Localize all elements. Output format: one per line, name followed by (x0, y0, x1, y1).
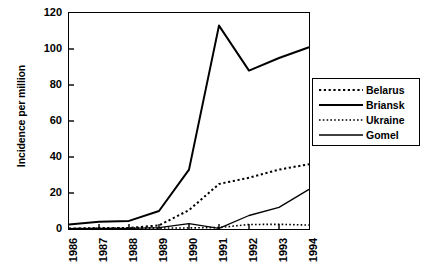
legend-label: Gomel (364, 129, 399, 141)
series-line-belarus (69, 164, 309, 228)
legend-line-sample (318, 85, 364, 95)
legend-line-sample (318, 100, 364, 110)
legend-label: Ukraine (364, 114, 405, 126)
legend-item-ukraine[interactable]: Ukraine (313, 112, 419, 127)
y-tick-label: 40 (30, 150, 66, 162)
x-tick-label: 1991 (211, 230, 225, 258)
legend-label: Belarus (364, 84, 405, 96)
y-tick-label: 80 (30, 78, 66, 90)
x-tick-label: 1987 (91, 230, 105, 258)
x-tick-label: 1988 (121, 230, 135, 258)
x-tick-label: 1993 (271, 230, 285, 258)
legend-item-briansk[interactable]: Briansk (313, 97, 419, 112)
legend-label: Briansk (364, 99, 405, 111)
series-line-briansk (69, 26, 309, 225)
x-tick-label: 1990 (181, 230, 195, 258)
axis-tick-marks (69, 49, 279, 229)
legend-item-gomel[interactable]: Gomel (313, 127, 419, 142)
series-line-gomel (69, 189, 309, 228)
chart-legend: BelarusBrianskUkraineGomel (312, 78, 420, 146)
y-tick-label: 60 (30, 114, 66, 126)
x-axis-tick-labels: 198619871988198919901991199219931994 (68, 230, 308, 275)
line-chart-figure: Incidence per million 020406080100120 19… (0, 0, 429, 275)
x-tick-label: 1992 (241, 230, 255, 258)
plot-area (68, 12, 310, 230)
legend-item-belarus[interactable]: Belarus (313, 82, 419, 97)
x-tick-label: 1994 (301, 230, 315, 258)
y-tick-label: 120 (30, 6, 66, 18)
legend-line-sample (318, 130, 364, 140)
data-series-group (69, 26, 309, 229)
plot-lines (69, 13, 309, 229)
y-tick-label: 20 (30, 186, 66, 198)
y-axis-title-label: Incidence per million (15, 65, 27, 167)
x-tick-label: 1989 (151, 230, 165, 258)
legend-line-sample (318, 115, 364, 125)
x-tick-label: 1986 (61, 230, 75, 258)
y-tick-label: 100 (30, 42, 66, 54)
